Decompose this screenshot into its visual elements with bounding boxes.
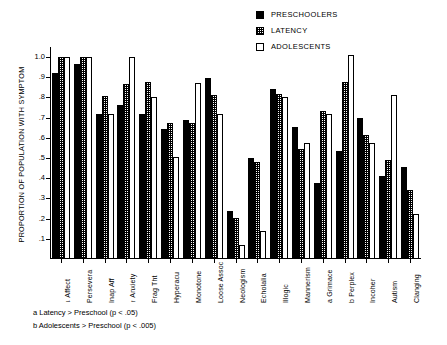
bar-group — [401, 47, 419, 259]
x-axis-label: Mannerism — [304, 267, 311, 303]
x-tick — [257, 259, 258, 263]
legend-item-preschoolers: PRESCHOOLERS — [256, 8, 436, 21]
bar-group — [379, 47, 397, 259]
bar-group — [292, 47, 310, 259]
bar — [391, 95, 397, 259]
x-axis-label: Persevera — [86, 270, 93, 303]
x-axis-label: ↑ Anxiety — [129, 274, 136, 303]
bar-group — [227, 47, 245, 259]
x-tick — [323, 259, 324, 263]
bar — [304, 143, 310, 259]
x-tick — [61, 259, 62, 263]
x-tick — [301, 259, 302, 263]
bar-group — [314, 47, 332, 259]
bar — [64, 57, 70, 259]
footnote-b: b Adolescents > Preschool (p < .005) — [33, 319, 156, 332]
bar — [369, 143, 375, 259]
legend-label-latency: LATENCY — [271, 27, 308, 35]
x-tick — [192, 259, 193, 263]
bar — [348, 55, 354, 259]
x-axis-label: b Perplex — [348, 272, 355, 303]
bar — [217, 114, 223, 259]
x-tick — [126, 259, 127, 263]
x-axis-label: Hyperacu — [173, 272, 180, 303]
x-tick — [105, 259, 106, 263]
y-tick-label: .3 — [26, 194, 45, 202]
x-axis-label: ↓ Affect — [64, 279, 71, 303]
figure-bar-chart: PRESCHOOLERS LATENCY ADOLESCENTS PROPORT… — [0, 0, 447, 345]
bar-group — [74, 47, 92, 259]
bar — [151, 97, 157, 259]
y-tick-label: .4 — [26, 174, 45, 182]
x-axis-label: Incoher — [369, 279, 376, 303]
footnotes: a Latency > Preschool (p < .05) b Adoles… — [33, 306, 156, 332]
stippled-square-icon — [256, 27, 264, 35]
bar — [195, 83, 201, 259]
x-axis-label: a Grimace — [326, 269, 333, 303]
y-tick-label: .5 — [26, 154, 45, 162]
bar-group — [357, 47, 375, 259]
bar — [282, 97, 288, 259]
bar-group — [96, 47, 114, 259]
x-axis-label: Monotone — [195, 271, 202, 303]
x-tick — [83, 259, 84, 263]
x-tick — [214, 259, 215, 263]
x-tick — [388, 259, 389, 263]
bar — [239, 245, 245, 259]
bar — [129, 57, 135, 259]
bar-group — [139, 47, 157, 259]
legend-item-latency: LATENCY — [256, 24, 436, 37]
bar-series-container — [50, 47, 421, 259]
bar-group — [161, 47, 179, 259]
bar — [86, 57, 92, 259]
y-tick-label: .9 — [26, 73, 45, 81]
bar-group — [117, 47, 135, 259]
y-axis-title: PROPORTION OF POPULATION WITH SYMPTOM — [17, 47, 26, 262]
x-axis-label: Echolalia — [260, 273, 267, 303]
bar — [173, 157, 179, 259]
x-tick — [345, 259, 346, 263]
bar-group — [270, 47, 288, 259]
x-tick — [279, 259, 280, 263]
x-axis-label: Neologism — [239, 269, 246, 303]
x-axis-label: Frag Tht — [151, 275, 158, 303]
y-tick-label: .7 — [26, 114, 45, 122]
bar — [326, 114, 332, 259]
x-tick — [410, 259, 411, 263]
bar-group — [205, 47, 223, 259]
plot-area: .1.2.3.4.5.6.7.8.91.0 — [50, 47, 421, 259]
x-tick — [366, 259, 367, 263]
y-tick-label: .6 — [26, 134, 45, 142]
x-axis-label: Illogic — [282, 284, 289, 303]
x-tick — [148, 259, 149, 263]
bar-group — [183, 47, 201, 259]
bar-group — [336, 47, 354, 259]
legend-label-preschoolers: PRESCHOOLERS — [271, 11, 338, 19]
bar — [108, 114, 114, 259]
x-axis-label: Inap Aff — [108, 278, 115, 303]
x-tick — [236, 259, 237, 263]
y-tick-label: .2 — [26, 215, 45, 223]
x-axis-label: Loose Assoc — [217, 262, 224, 303]
bar — [413, 214, 419, 259]
x-tick — [170, 259, 171, 263]
x-axis-label: Clanging — [413, 274, 420, 303]
bar-group — [52, 47, 70, 259]
y-tick-label: 1.0 — [26, 53, 45, 61]
solid-black-square-icon — [256, 11, 264, 19]
x-axis-label: Autism — [391, 281, 398, 303]
y-tick-label: .1 — [26, 235, 45, 243]
footnote-a: a Latency > Preschool (p < .05) — [33, 306, 156, 319]
bar-group — [248, 47, 266, 259]
y-tick-label: .8 — [26, 93, 45, 101]
bar — [260, 231, 266, 259]
